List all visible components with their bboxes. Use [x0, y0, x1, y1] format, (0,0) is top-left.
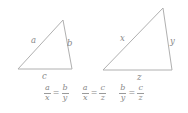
similar-triangles-figure: a b c x y z a x = b y a x = — [0, 0, 188, 113]
large-triangle-label-z: z — [137, 73, 141, 82]
equation-2-left-numerator: a — [82, 84, 89, 92]
large-triangle-label-x: x — [120, 34, 125, 43]
equation-3-equals-sign: = — [128, 89, 136, 97]
equation-2-right-fraction: c z — [99, 84, 106, 103]
proportion-equations: a x = b y a x = c z — [0, 84, 188, 103]
small-triangle-label-a: a — [31, 36, 36, 45]
equation-3-right-numerator: c — [137, 84, 143, 92]
equation-2: a x = c z — [82, 84, 107, 103]
equation-3-left-denominator: y — [120, 94, 127, 102]
equation-2-left-fraction: a x — [82, 84, 89, 103]
equation-2-right-denominator: z — [100, 94, 106, 102]
large-triangle-label-y: y — [170, 37, 175, 46]
equation-2-equals-sign: = — [90, 89, 98, 97]
equation-1-right-fraction: b y — [62, 84, 69, 103]
equation-1-left-denominator: x — [44, 94, 51, 102]
equation-1-right-numerator: b — [62, 84, 69, 92]
small-triangle-label-c: c — [42, 72, 47, 81]
equation-3-right-denominator: z — [138, 94, 144, 102]
equation-2-left-denominator: x — [82, 94, 89, 102]
equation-3-left-numerator: b — [119, 84, 126, 92]
equation-3: b y = c z — [119, 84, 144, 103]
small-triangle-shape — [18, 20, 72, 69]
equation-1: a x = b y — [44, 84, 69, 103]
equation-3-right-fraction: c z — [137, 84, 144, 103]
equation-2-right-numerator: c — [100, 84, 106, 92]
equation-1-right-denominator: y — [62, 94, 69, 102]
equation-1-left-fraction: a x — [44, 84, 51, 103]
large-triangle-shape — [103, 8, 172, 70]
equation-1-equals-sign: = — [52, 89, 60, 97]
equation-1-left-numerator: a — [44, 84, 51, 92]
small-triangle-label-b: b — [67, 39, 72, 48]
equation-3-left-fraction: b y — [119, 84, 126, 103]
